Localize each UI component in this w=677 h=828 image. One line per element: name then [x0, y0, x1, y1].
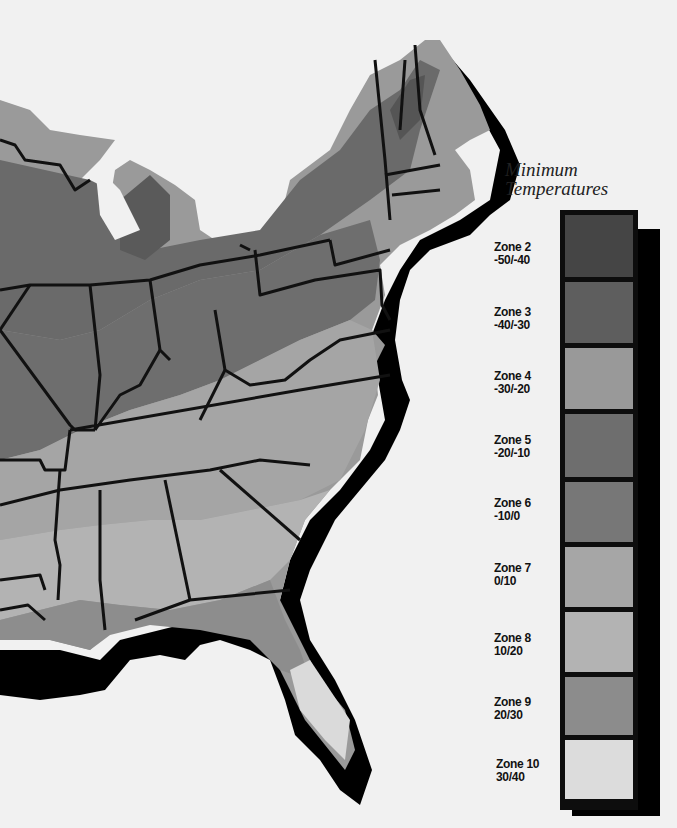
legend-title-line1: Minimum — [505, 160, 608, 179]
swatch-zone-6 — [565, 482, 633, 542]
zone-label-9: Zone 920/30 — [494, 696, 531, 722]
zone-label-7: Zone 70/10 — [494, 562, 531, 588]
zone-label-4: Zone 4-30/-20 — [494, 370, 531, 396]
legend-color-scale — [560, 210, 638, 810]
swatch-zone-3 — [565, 282, 633, 343]
legend-title-line2: Temperatures — [505, 179, 608, 198]
swatch-zone-5 — [565, 414, 633, 477]
swatch-zone-10 — [565, 740, 633, 799]
swatch-zone-2 — [565, 215, 633, 277]
zone-label-5: Zone 5-20/-10 — [494, 434, 531, 460]
zone-label-8: Zone 810/20 — [494, 632, 531, 658]
swatch-zone-7 — [565, 547, 633, 607]
swatch-zone-8 — [565, 612, 633, 672]
swatch-zone-4 — [565, 348, 633, 409]
legend-title: Minimum Temperatures — [505, 160, 608, 198]
zone-label-2: Zone 2-50/-40 — [494, 241, 531, 267]
zone-label-3: Zone 3-40/-30 — [494, 306, 531, 332]
zone-label-10: Zone 1030/40 — [496, 758, 539, 784]
swatch-zone-9 — [565, 677, 633, 735]
zone-label-6: Zone 6-10/0 — [494, 497, 531, 523]
